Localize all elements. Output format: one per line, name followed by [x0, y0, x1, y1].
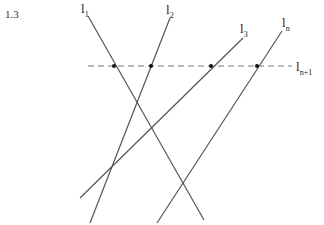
label-l1: l1	[81, 2, 89, 19]
intersection-point	[255, 64, 259, 68]
line-l1	[88, 16, 204, 220]
intersection-point	[209, 64, 213, 68]
line-l2	[90, 18, 170, 223]
lines-diagram	[0, 0, 324, 225]
intersection-point	[149, 64, 153, 68]
line-ln	[157, 31, 282, 223]
label-ln: ln	[282, 16, 290, 33]
label-l3: l3	[240, 22, 248, 39]
intersection-point	[112, 64, 116, 68]
label-l2: l2	[166, 3, 174, 20]
label-transversal: ln+1	[296, 60, 312, 77]
line-l3	[80, 38, 243, 198]
